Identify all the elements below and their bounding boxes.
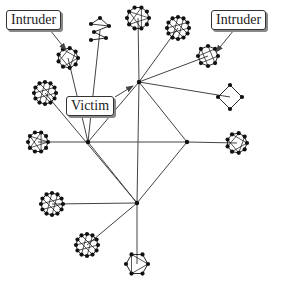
- node-dot: [139, 26, 143, 30]
- node-dot: [39, 202, 43, 206]
- hub-node: [86, 140, 90, 144]
- node-dot: [187, 26, 191, 30]
- node-dot: [166, 31, 170, 35]
- node-dot: [37, 100, 41, 104]
- node-dot: [40, 207, 44, 211]
- node-dot: [147, 16, 151, 20]
- node-dot: [181, 35, 185, 39]
- cluster-link: [88, 30, 100, 142]
- cluster-edge: [230, 85, 242, 97]
- node-dot: [28, 134, 32, 138]
- network-diagram: [0, 0, 293, 283]
- node-dot: [85, 232, 89, 236]
- node-dot: [57, 59, 61, 63]
- node-dot: [107, 24, 111, 28]
- node-dot: [39, 149, 43, 153]
- node-dot: [185, 20, 189, 24]
- node-dot: [213, 61, 217, 65]
- node-dot: [33, 149, 37, 153]
- node-dot: [129, 252, 133, 256]
- node-dot: [129, 271, 133, 275]
- node-dot: [74, 49, 78, 53]
- node-dot: [206, 44, 210, 48]
- cluster-edge: [94, 26, 109, 32]
- node-dot: [165, 26, 169, 30]
- node-dot: [230, 132, 234, 136]
- cluster-edge: [218, 85, 230, 97]
- node-dot: [26, 140, 30, 144]
- pointer-arrow: [216, 30, 234, 52]
- node-dot: [44, 134, 48, 138]
- node-dot: [55, 192, 59, 196]
- node-dot: [216, 54, 220, 58]
- node-dot: [55, 211, 59, 215]
- node-dot: [37, 81, 41, 85]
- node-dot: [50, 191, 54, 195]
- node-dot: [199, 61, 203, 65]
- node-dot: [237, 151, 241, 155]
- node-dot: [181, 16, 185, 20]
- node-dot: [243, 134, 247, 138]
- node-dot: [57, 52, 61, 56]
- node-dot: [52, 96, 56, 100]
- hub-node: [135, 201, 139, 205]
- victim-label: Victim: [66, 96, 114, 116]
- node-dot: [237, 131, 241, 135]
- node-dot: [145, 22, 149, 26]
- node-dot: [79, 233, 83, 237]
- node-dot: [33, 96, 37, 100]
- node-dot: [48, 81, 52, 85]
- cluster-link: [87, 203, 137, 245]
- node-dot: [92, 30, 96, 34]
- node-dot: [90, 252, 94, 256]
- node-dot: [145, 9, 149, 13]
- node-dot: [127, 22, 131, 26]
- node-dot: [196, 54, 200, 58]
- node-dot: [59, 207, 63, 211]
- node-dot: [228, 83, 232, 87]
- node-dot: [243, 147, 247, 151]
- node-dot: [176, 37, 180, 41]
- node-dot: [32, 91, 36, 95]
- node-dot: [74, 62, 78, 66]
- node-dot: [75, 237, 79, 241]
- hub-edge: [139, 82, 187, 142]
- cluster-link: [138, 18, 139, 82]
- node-dot: [206, 64, 210, 68]
- node-dot: [33, 85, 37, 89]
- node-dot: [59, 196, 63, 200]
- node-dot: [44, 192, 48, 196]
- node-dot: [85, 254, 89, 258]
- node-dot: [28, 146, 32, 150]
- node-dot: [44, 211, 48, 215]
- node-dot: [199, 47, 203, 51]
- node-dot: [48, 100, 52, 104]
- cluster-link: [139, 56, 208, 82]
- cluster-link: [139, 82, 230, 97]
- node-dot: [96, 243, 100, 247]
- node-dot: [170, 16, 174, 20]
- node-dot: [166, 20, 170, 24]
- node-dot: [89, 38, 93, 42]
- intruder-label-left: Intruder: [6, 10, 61, 30]
- node-dot: [43, 102, 47, 106]
- node-dot: [68, 46, 72, 50]
- node-dot: [94, 248, 98, 252]
- node-dot: [185, 31, 189, 35]
- node-dot: [52, 85, 56, 89]
- node-dot: [124, 262, 128, 266]
- node-dot: [54, 91, 58, 95]
- node-dot: [125, 16, 129, 20]
- node-dot: [43, 80, 47, 84]
- node-dot: [216, 95, 220, 99]
- node-dot: [68, 66, 72, 70]
- node-dot: [98, 16, 102, 20]
- node-dot: [76, 56, 80, 60]
- node-dot: [139, 5, 143, 9]
- node-dot: [94, 237, 98, 241]
- hub-node: [137, 80, 141, 84]
- node-dot: [133, 5, 137, 9]
- pointer-arrow: [50, 30, 66, 50]
- node-dot: [104, 36, 108, 40]
- node-dot: [213, 47, 217, 51]
